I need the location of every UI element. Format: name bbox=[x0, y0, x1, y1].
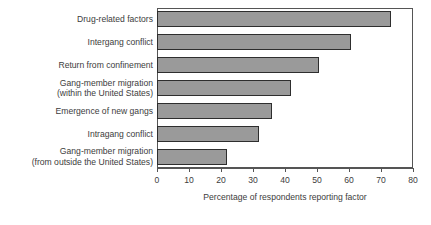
x-axis-title: Percentage of respondents reporting fact… bbox=[157, 192, 413, 203]
category-label: Intragang conflict bbox=[0, 129, 153, 139]
x-tick-label: 20 bbox=[206, 175, 236, 185]
x-tick-label: 10 bbox=[174, 175, 204, 185]
category-label-line: (from outside the United States) bbox=[0, 157, 153, 167]
x-tick bbox=[381, 168, 382, 172]
category-label-line: Gang-member migration bbox=[0, 78, 153, 88]
category-label: Return from confinement bbox=[0, 60, 153, 70]
category-labels: Drug-related factorsIntergang conflictRe… bbox=[0, 8, 153, 168]
category-label: Drug-related factors bbox=[0, 14, 153, 24]
category-label-line: (within the United States) bbox=[0, 88, 153, 98]
x-tick bbox=[413, 168, 414, 172]
bar bbox=[157, 126, 259, 142]
x-tick-label: 40 bbox=[270, 175, 300, 185]
category-label-line: Intergang conflict bbox=[0, 37, 153, 47]
bar-chart: Drug-related factorsIntergang conflictRe… bbox=[0, 0, 431, 225]
category-label-line: Intragang conflict bbox=[0, 129, 153, 139]
x-tick bbox=[221, 168, 222, 172]
x-tick bbox=[157, 168, 158, 172]
x-tick bbox=[189, 168, 190, 172]
category-label-line: Drug-related factors bbox=[0, 14, 153, 24]
bar bbox=[157, 34, 351, 50]
category-label-line: Gang-member migration bbox=[0, 146, 153, 156]
x-tick-label: 0 bbox=[142, 175, 172, 185]
bar bbox=[157, 57, 319, 73]
x-tick bbox=[253, 168, 254, 172]
bar bbox=[157, 149, 227, 165]
category-label-line: Return from confinement bbox=[0, 60, 153, 70]
x-tick bbox=[285, 168, 286, 172]
x-tick-label: 70 bbox=[366, 175, 396, 185]
bar bbox=[157, 80, 291, 96]
category-label: Emergence of new gangs bbox=[0, 106, 153, 116]
bars-layer bbox=[157, 8, 413, 168]
bar bbox=[157, 103, 272, 119]
x-tick-label: 30 bbox=[238, 175, 268, 185]
category-label: Gang-member migration(from outside the U… bbox=[0, 146, 153, 166]
x-tick-label: 60 bbox=[334, 175, 364, 185]
category-label: Gang-member migration(within the United … bbox=[0, 78, 153, 98]
category-label-line: Emergence of new gangs bbox=[0, 106, 153, 116]
bar bbox=[157, 11, 391, 27]
category-label: Intergang conflict bbox=[0, 37, 153, 47]
x-tick-label: 50 bbox=[302, 175, 332, 185]
x-tick bbox=[317, 168, 318, 172]
x-tick bbox=[349, 168, 350, 172]
x-tick-label: 80 bbox=[398, 175, 428, 185]
